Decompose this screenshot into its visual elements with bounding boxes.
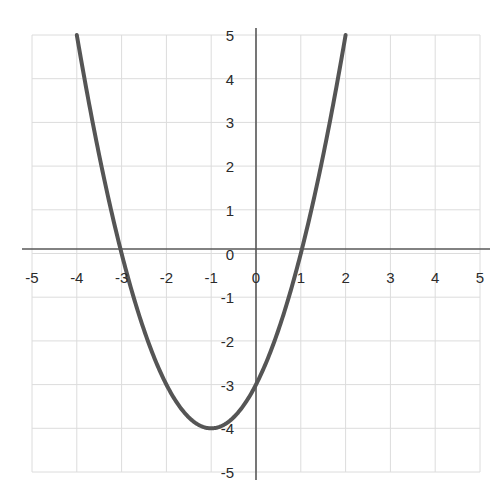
y-tick-label: 0 (0, 246, 234, 261)
x-tick-label: 3 (386, 270, 394, 285)
y-tick-label: 2 (0, 159, 234, 174)
x-tick-label: -3 (115, 270, 128, 285)
x-tick-label: 0 (252, 270, 260, 285)
y-tick-label: 3 (0, 115, 234, 130)
x-tick-label: 5 (476, 270, 484, 285)
y-tick-label: -5 (0, 465, 234, 480)
y-tick-label: -3 (0, 377, 234, 392)
x-tick-label: 2 (341, 270, 349, 285)
x-tick-label: -4 (70, 270, 83, 285)
y-tick-label: -2 (0, 333, 234, 348)
x-tick-label: -5 (25, 270, 38, 285)
y-tick-label: -4 (0, 421, 234, 436)
y-tick-label: -1 (0, 290, 234, 305)
parabola-graph-figure: -5-4-3-2-1012345 543210-1-2-3-4-5 (0, 0, 503, 500)
x-tick-label: 4 (431, 270, 439, 285)
x-tick-label: -2 (160, 270, 173, 285)
y-tick-label: 1 (0, 202, 234, 217)
y-tick-label: 5 (0, 28, 234, 43)
x-tick-label: 1 (297, 270, 305, 285)
x-tick-label: -1 (205, 270, 218, 285)
y-tick-label: 4 (0, 71, 234, 86)
